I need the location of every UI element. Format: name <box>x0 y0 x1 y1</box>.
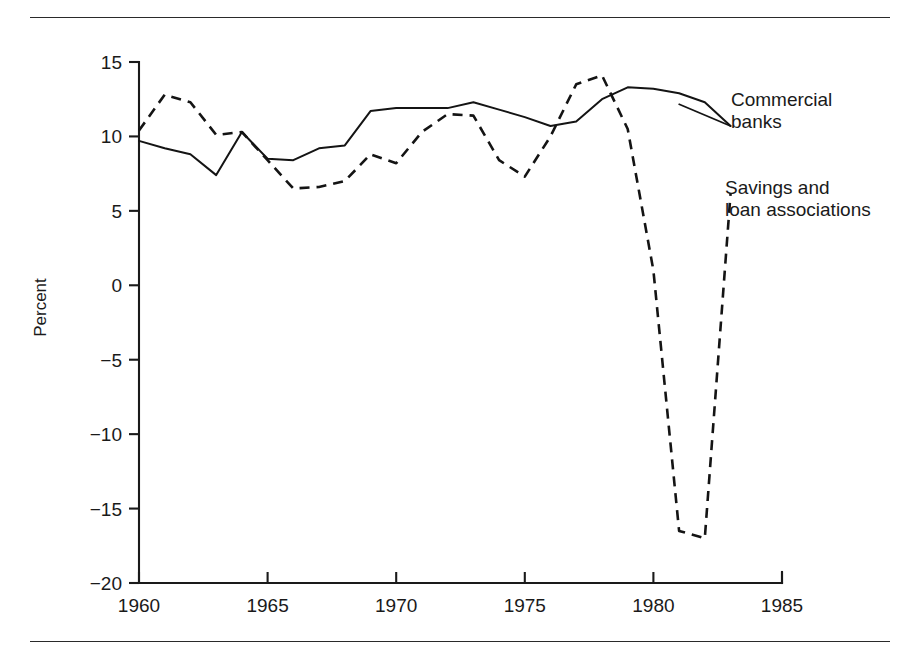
leader-lines-group <box>679 104 731 126</box>
x-tick-label: 1985 <box>761 595 803 616</box>
y-tick-label: −15 <box>90 499 122 520</box>
figure-container: 151050−5−10−15−2019601965197019751980198… <box>0 0 920 667</box>
y-tick-label: −10 <box>90 424 122 445</box>
axes-group: 151050−5−10−15−2019601965197019751980198… <box>90 52 803 616</box>
commercial-banks-leader-line <box>679 104 731 126</box>
series-line-commercial-banks <box>139 87 731 175</box>
y-tick-label: 5 <box>111 201 122 222</box>
x-tick-label: 1965 <box>246 595 288 616</box>
x-tick-label: 1980 <box>632 595 674 616</box>
y-tick-label: −5 <box>100 350 122 371</box>
commercial-banks-label: Commercial banks <box>731 89 832 134</box>
x-tick-label: 1975 <box>504 595 546 616</box>
series-line-savings-loan <box>139 75 731 538</box>
x-tick-label: 1970 <box>375 595 417 616</box>
y-tick-label: −20 <box>90 573 122 594</box>
series-group <box>139 75 731 538</box>
y-tick-label: 10 <box>101 126 122 147</box>
y-tick-label: 15 <box>101 52 122 73</box>
y-tick-label: 0 <box>111 275 122 296</box>
x-tick-label: 1960 <box>118 595 160 616</box>
savings-loan-label: Savings and loan associations <box>725 177 871 222</box>
y-axis-title: Percent <box>31 278 50 337</box>
